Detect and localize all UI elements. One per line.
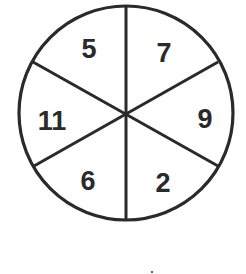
sector-value-right: 9 — [197, 104, 212, 134]
sector-value-left: 11 — [38, 106, 67, 136]
sector-value-bottom-right: 2 — [155, 168, 170, 198]
stray-speck — [151, 271, 153, 273]
sector-value-bottom-left: 6 — [80, 166, 95, 196]
sector-value-top-right: 7 — [156, 38, 171, 68]
sector-circle-diagram: 5 7 9 2 6 11 — [0, 0, 246, 274]
sector-value-top-left: 5 — [81, 34, 96, 64]
